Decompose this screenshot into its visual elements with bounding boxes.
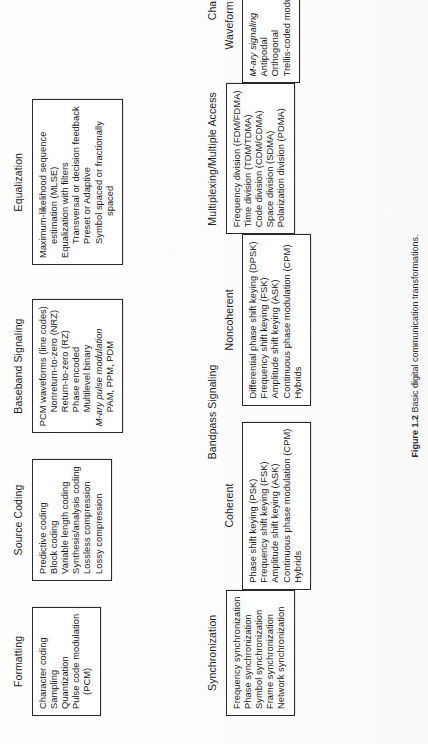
subgroup-noncoherent: Noncoherent Differential phase shift key… bbox=[223, 234, 312, 405]
list-multiplexing-multiple-access: Frequency division (FDM/FDMA) Time divis… bbox=[232, 90, 288, 227]
group-channel-coding: Channel Coding Waveform M-ary signaling … bbox=[206, 0, 301, 83]
group-title-channel-coding: Channel Coding bbox=[206, 0, 219, 20]
box-baseband-signaling: PCM waveforms (line codes) Nonreturn-to-… bbox=[32, 299, 123, 433]
group-title-bandpass-signaling: Bandpass Signaling bbox=[206, 365, 219, 460]
list-item: estimation (MLSE) bbox=[49, 106, 60, 258]
list-item: Phase shift keying (PSK) bbox=[248, 429, 259, 583]
list-item: PAM, PPM, PDM bbox=[105, 306, 116, 426]
list-item: Hybrids bbox=[293, 241, 304, 398]
list-item: Sampling bbox=[49, 614, 60, 709]
list-item: Trellis-coded modulation bbox=[282, 0, 293, 76]
group-title-synchronization: Synchronization bbox=[206, 615, 219, 691]
group-equalization: Equalization Maximum-likelihood sequence… bbox=[12, 99, 123, 265]
list-item: Preset or Adaptive bbox=[82, 106, 93, 258]
diagram-bottom-row: Synchronization Frequency synchronizatio… bbox=[206, 26, 311, 718]
box-formatting: Character coding Sampling Quantization P… bbox=[32, 607, 101, 716]
list-waveform: M-ary signaling Antipodal Orthogonal Tre… bbox=[248, 0, 293, 76]
list-item: Lossless compression bbox=[82, 466, 93, 574]
list-item: Multilevel binary bbox=[82, 306, 93, 426]
list-item: Space division (SDMA) bbox=[265, 90, 276, 227]
group-multiplexing-multiple-access: Multiplexing/Multiple Access Frequency d… bbox=[206, 83, 295, 234]
list-item: Synthesis/analysis coding bbox=[71, 466, 82, 574]
list-formatting: Character coding Sampling Quantization P… bbox=[38, 614, 94, 709]
group-title-baseband-signaling: Baseband Signaling bbox=[12, 318, 25, 413]
list-item: Code division (CDM/CDMA) bbox=[254, 90, 265, 227]
list-baseband-signaling: PCM waveforms (line codes) Nonreturn-to-… bbox=[38, 306, 116, 426]
list-item: Phase synchronization bbox=[243, 597, 254, 709]
diagram-top-row: Formatting Character coding Sampling Qua… bbox=[12, 26, 123, 718]
list-item: Amplitude shift keying (ASK) bbox=[270, 241, 281, 398]
list-item: Transversal or decision feedback bbox=[71, 106, 82, 258]
group-title-equalization: Equalization bbox=[12, 153, 25, 211]
list-item: Maximum-likelihood sequence bbox=[38, 106, 49, 258]
list-item-text: M-ary signaling bbox=[248, 13, 258, 77]
subgroup-title-waveform: Waveform bbox=[223, 1, 236, 49]
group-title-formatting: Formatting bbox=[12, 636, 25, 687]
group-source-coding: Source Coding Predictive coding Block co… bbox=[12, 459, 112, 581]
list-item: Lossy compression bbox=[94, 466, 105, 574]
list-coherent: Phase shift keying (PSK) Frequency shift… bbox=[248, 429, 304, 583]
figure-caption-text: Basic digital communication transformati… bbox=[410, 234, 420, 412]
list-item: Phase encoded bbox=[71, 306, 82, 426]
list-synchronization: Frequency synchronization Phase synchron… bbox=[232, 597, 288, 709]
list-item: M-ary signaling bbox=[248, 0, 259, 76]
list-item: Amplitude shift keying (ASK) bbox=[270, 429, 281, 583]
box-equalization: Maximum-likelihood sequence estimation (… bbox=[32, 99, 123, 265]
group-bandpass-signaling: Bandpass Signaling Coherent Phase shift … bbox=[206, 234, 311, 589]
figure-caption-label: Figure 1.2 bbox=[410, 415, 420, 458]
list-item: Frequency division (FDM/FDMA) bbox=[232, 90, 243, 227]
group-title-multiplexing-multiple-access: Multiplexing/Multiple Access bbox=[206, 92, 219, 226]
list-item: Antipodal bbox=[259, 0, 270, 76]
subgroup-title-noncoherent: Noncoherent bbox=[223, 289, 236, 350]
list-source-coding: Predictive coding Block coding Variable … bbox=[38, 466, 105, 574]
diagram-root: Formatting Character coding Sampling Qua… bbox=[8, 28, 398, 718]
box-noncoherent: Differential phase shift keying (DPSK) F… bbox=[242, 234, 311, 405]
list-item: Frequency shift keying (FSK) bbox=[259, 429, 270, 583]
subgroup-waveform: Waveform M-ary signaling Antipodal Ortho… bbox=[223, 0, 300, 83]
list-item: (PCM) bbox=[82, 614, 93, 709]
list-item: Quantization bbox=[60, 614, 71, 709]
list-item: Hybrids bbox=[293, 429, 304, 583]
list-item: spaced bbox=[105, 106, 116, 258]
list-item: Variable length coding bbox=[60, 466, 71, 574]
list-item: M-ary pulse modulation bbox=[94, 306, 105, 426]
box-waveform: M-ary signaling Antipodal Orthogonal Tre… bbox=[242, 0, 300, 83]
list-item: Frequency synchronization bbox=[232, 597, 243, 709]
figure-caption: Figure 1.2 Basic digital communication t… bbox=[410, 0, 420, 718]
bandpass-subgroups: Coherent Phase shift keying (PSK) Freque… bbox=[223, 234, 312, 589]
list-item: Return-to-zero (RZ) bbox=[60, 306, 71, 426]
box-coherent: Phase shift keying (PSK) Frequency shift… bbox=[242, 422, 311, 590]
channel-coding-subgroups: Waveform M-ary signaling Antipodal Ortho… bbox=[223, 0, 302, 83]
figure-viewport: Formatting Character coding Sampling Qua… bbox=[0, 0, 428, 744]
list-item: Predictive coding bbox=[38, 466, 49, 574]
rotated-page-stage: Formatting Character coding Sampling Qua… bbox=[0, 0, 428, 744]
box-source-coding: Predictive coding Block coding Variable … bbox=[32, 459, 112, 581]
list-item: Symbol synchronization bbox=[254, 597, 265, 709]
group-formatting: Formatting Character coding Sampling Qua… bbox=[12, 607, 101, 716]
list-item: Frequency shift keying (FSK) bbox=[259, 241, 270, 398]
list-item: Nonreturn-to-zero (NRZ) bbox=[49, 306, 60, 426]
list-item: Differential phase shift keying (DPSK) bbox=[248, 241, 259, 398]
list-equalization: Maximum-likelihood sequence estimation (… bbox=[38, 106, 116, 258]
list-item: Polarization division (PDMA) bbox=[276, 90, 287, 227]
subgroup-coherent: Coherent Phase shift keying (PSK) Freque… bbox=[223, 422, 312, 590]
box-multiplexing-multiple-access: Frequency division (FDM/FDMA) Time divis… bbox=[226, 83, 295, 234]
list-item: Orthogonal bbox=[270, 0, 281, 76]
box-synchronization: Frequency synchronization Phase synchron… bbox=[226, 590, 295, 716]
group-title-source-coding: Source Coding bbox=[12, 485, 25, 556]
list-item: Network synchronization bbox=[276, 597, 287, 709]
list-item: Block coding bbox=[49, 466, 60, 574]
list-item: Equalization with filters bbox=[60, 106, 71, 258]
list-item: Pulse code modulation bbox=[71, 614, 82, 709]
list-noncoherent: Differential phase shift keying (DPSK) F… bbox=[248, 241, 304, 398]
list-item: Continuous phase modulation (CPM) bbox=[282, 429, 293, 583]
list-item: Continuous phase modulation (CPM) bbox=[282, 241, 293, 398]
list-item: Symbol spaced or fractionally bbox=[94, 106, 105, 258]
subgroup-title-coherent: Coherent bbox=[223, 484, 236, 528]
list-item: Frame synchronization bbox=[265, 597, 276, 709]
group-synchronization: Synchronization Frequency synchronizatio… bbox=[206, 590, 295, 716]
list-item: PCM waveforms (line codes) bbox=[38, 306, 49, 426]
group-baseband-signaling: Baseband Signaling PCM waveforms (line c… bbox=[12, 299, 123, 433]
list-item-text: M-ary pulse modulation bbox=[94, 328, 104, 426]
list-item: Time division (TDM/TDMA) bbox=[243, 90, 254, 227]
